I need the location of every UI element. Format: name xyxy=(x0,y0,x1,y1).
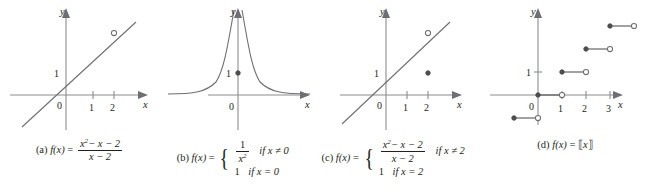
origin-label-b: 0 xyxy=(229,101,234,112)
origin-label-d: 0 xyxy=(529,101,534,112)
x-tick-label-1-c: 1 xyxy=(403,102,408,113)
panel-a-graph: y x 0 1 2 1 xyxy=(0,0,160,136)
fraction-a-numerator: x2− x − 2 xyxy=(78,138,122,151)
case-c-1-condition: if x ≠ 2 xyxy=(435,144,483,157)
equals-sign-c: = xyxy=(353,152,359,163)
origin-label-c: 0 xyxy=(377,100,382,111)
case-b-2-value: 1 xyxy=(234,166,239,177)
y-axis-label-b: y xyxy=(230,6,236,17)
x-tick-label-3-d: 3 xyxy=(606,103,611,114)
open-point-c-2-3 xyxy=(425,30,430,35)
panel-d-caption: (d) f(x) = ⟦x⟧ xyxy=(485,138,645,151)
brace-b: { xyxy=(220,147,229,169)
curve-b-right-branch xyxy=(242,10,310,94)
panel-b-graph: y x 0 1 xyxy=(160,0,320,136)
filled-point-d-2 xyxy=(584,47,588,51)
fraction-a-denominator: x − 2 xyxy=(78,151,122,163)
y-tick-label-1-a: 1 xyxy=(54,68,59,79)
floor-bracket-close-icon: ⟧ xyxy=(588,139,593,150)
panel-a: y x 0 1 2 1 (a) f(x) = x2− x − 2 x − 2 xyxy=(0,0,160,190)
equals-sign-d: = xyxy=(569,139,575,150)
panel-c-label: (c) xyxy=(322,152,334,163)
fraction-b-numerator: 1 xyxy=(236,138,248,152)
line-graph-c xyxy=(342,22,450,124)
x-axis-label-c: x xyxy=(456,99,462,110)
figure-four-function-graphs: y x 0 1 2 1 (a) f(x) = x2− x − 2 x − 2 xyxy=(0,0,645,190)
panel-d-graph: y x 0 1 2 3 1 xyxy=(485,0,645,136)
filled-point-d-3 xyxy=(608,24,612,28)
fraction-c: x2− x − 2 x − 2 xyxy=(381,138,425,165)
fraction-b: 1 x2 xyxy=(236,138,248,165)
x-axis-arrow-d xyxy=(613,91,623,99)
panel-a-caption: (a) f(x) = x2− x − 2 x − 2 xyxy=(0,138,160,163)
panel-b-caption: (b) f(x) = { 1 x2 if x ≠ 0 1 if x = 0 xyxy=(160,138,320,178)
x-tick-label-2-a: 2 xyxy=(110,102,115,113)
line-graph-a xyxy=(22,22,136,127)
equals-sign-b: = xyxy=(209,152,215,163)
x-axis-label-b: x xyxy=(304,99,310,110)
open-point-d-0 xyxy=(559,92,564,97)
panel-c-graph: y x 0 1 2 1 xyxy=(320,0,485,136)
case-c-2-condition: if x = 2 xyxy=(393,165,441,178)
case-c-2-value: 1 xyxy=(379,166,384,177)
y-axis-label-a: y xyxy=(59,6,65,17)
x-axis-arrow-c xyxy=(452,91,462,99)
x-tick-label-2-c: 2 xyxy=(424,102,429,113)
panel-a-label: (a) xyxy=(36,144,48,155)
x-tick-label-1-d: 1 xyxy=(558,103,563,114)
graph-b-svg: y x 0 1 xyxy=(160,0,320,136)
panel-a-fname: f(x) xyxy=(50,144,65,155)
cases-b: 1 x2 if x ≠ 0 1 if x = 0 xyxy=(234,138,303,178)
graph-d-svg: y x 0 1 2 3 1 xyxy=(485,0,645,136)
filled-point-d-0 xyxy=(536,93,540,97)
fraction-c-numerator: x2− x − 2 xyxy=(381,138,425,152)
filled-point-d-1 xyxy=(560,70,564,74)
panel-c-caption: (c) f(x) = { x2− x − 2 x − 2 if x ≠ 2 1 … xyxy=(320,138,485,178)
y-axis-label-c: y xyxy=(379,6,385,17)
open-point-a-2-3 xyxy=(111,30,116,35)
fraction-c-denominator: x − 2 xyxy=(381,152,425,165)
filled-point-b-0-1 xyxy=(236,71,240,75)
y-axis-label-d: y xyxy=(530,6,536,17)
case-b-2-condition: if x = 0 xyxy=(248,165,292,178)
x-axis-arrow-b xyxy=(300,91,310,99)
x-axis-arrow-a xyxy=(138,91,148,99)
open-point-d-neg1 xyxy=(535,115,540,120)
filled-point-c-2-1 xyxy=(426,71,430,75)
case-b-1-condition: if x ≠ 0 xyxy=(259,144,303,157)
panel-c-fname: f(x) xyxy=(336,152,351,163)
y-tick-label-1-d: 1 xyxy=(526,67,531,78)
case-row-c-1: x2− x − 2 x − 2 if x ≠ 2 xyxy=(379,138,484,165)
equals-sign-a: = xyxy=(67,144,73,155)
graph-a-svg: y x 0 1 2 1 xyxy=(0,0,160,136)
open-point-d-1 xyxy=(583,69,588,74)
y-tick-label-1-b: 1 xyxy=(226,68,231,79)
case-row-b-2: 1 if x = 0 xyxy=(234,165,303,178)
x-axis-label-d: x xyxy=(617,99,623,110)
open-point-d-2 xyxy=(607,46,612,51)
case-row-c-2: 1 if x = 2 xyxy=(379,165,484,178)
panel-b: y x 0 1 (b) f(x) = { 1 x2 if x ≠ 0 xyxy=(160,0,320,190)
y-tick-label-1-c: 1 xyxy=(374,68,379,79)
case-row-b-1: 1 x2 if x ≠ 0 xyxy=(234,138,303,165)
panel-b-label: (b) xyxy=(177,152,189,163)
fraction-b-denominator: x2 xyxy=(236,152,248,165)
x-axis-label-a: x xyxy=(142,99,148,110)
x-tick-label-2-d: 2 xyxy=(582,103,587,114)
panel-b-fname: f(x) xyxy=(192,152,207,163)
brace-c: { xyxy=(364,147,373,169)
panel-d: y x 0 1 2 3 1 (d) f(x) = ⟦x⟧ xyxy=(485,0,645,190)
panel-c: y x 0 1 2 1 (c) f(x) = { x2− x − 2 x − 2 xyxy=(320,0,485,190)
x-tick-label-1-a: 1 xyxy=(89,102,94,113)
cases-c: x2− x − 2 x − 2 if x ≠ 2 1 if x = 2 xyxy=(379,138,484,178)
graph-c-svg: y x 0 1 2 1 xyxy=(320,0,485,136)
open-point-d-3 xyxy=(631,23,636,28)
panel-d-fname: f(x) xyxy=(552,139,567,150)
fraction-a: x2− x − 2 x − 2 xyxy=(78,138,122,163)
filled-point-d-neg1 xyxy=(512,116,516,120)
origin-label-a: 0 xyxy=(57,100,62,111)
panel-d-label: (d) xyxy=(537,139,549,150)
curve-b-left-branch xyxy=(168,10,234,94)
